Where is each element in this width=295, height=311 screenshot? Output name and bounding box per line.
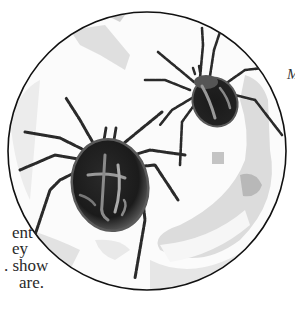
left-text-line-2: ey (12, 240, 28, 257)
left-text-line-4: are. (19, 274, 44, 291)
left-text-line-3: . show (4, 257, 48, 274)
right-text-fragment: M (287, 66, 295, 83)
